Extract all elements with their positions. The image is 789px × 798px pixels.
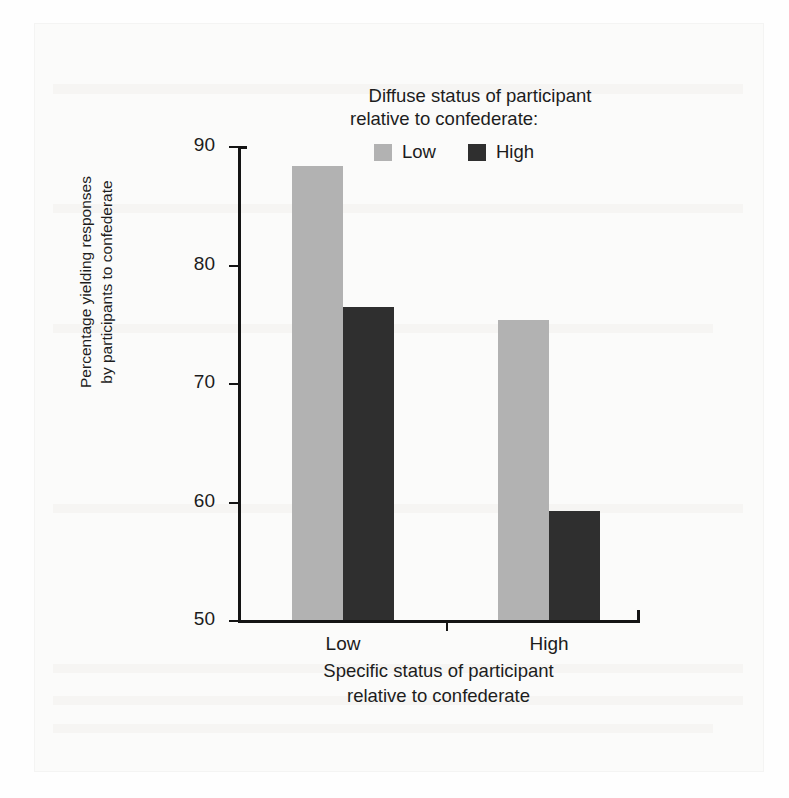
- x-tick-label-low: Low: [273, 632, 413, 656]
- y-axis-title: Percentage yielding responses by partici…: [75, 112, 119, 452]
- x-tick-label-high: High: [479, 632, 619, 656]
- y-tick-label: 80: [194, 253, 215, 275]
- legend-title-line-2: relative to confederate:: [330, 107, 630, 130]
- y-tick: 60: [229, 502, 238, 504]
- y-tick: 80: [229, 265, 238, 267]
- y-tick: 50: [229, 620, 238, 622]
- y-axis-title-line-1: Percentage yielding responses: [75, 112, 96, 452]
- bar-high-low: [498, 320, 549, 620]
- x-axis-right-cap: [637, 610, 640, 623]
- y-axis-title-line-2: by participants to confederate: [96, 112, 117, 452]
- y-tick: 90: [229, 146, 238, 148]
- legend-title: Diffuse status of participant relative t…: [330, 84, 630, 130]
- y-tick: 70: [229, 383, 238, 385]
- y-tick-label: 60: [194, 490, 215, 512]
- x-axis-title-line-1: Specific status of participant: [238, 658, 639, 683]
- y-tick-label: 50: [194, 608, 215, 630]
- scanned-page: Diffuse status of participant relative t…: [0, 0, 789, 798]
- y-axis-line: [238, 146, 241, 620]
- bar-chart-figure: Diffuse status of participant relative t…: [0, 0, 789, 798]
- x-axis-title-line-2: relative to confederate: [238, 683, 639, 708]
- bar-low-low: [292, 166, 343, 620]
- bar-high-high: [549, 511, 600, 620]
- x-tick: [446, 620, 448, 631]
- y-tick-label: 70: [194, 371, 215, 393]
- y-axis-top-cap: [238, 146, 247, 149]
- x-axis-line: [238, 620, 639, 623]
- bar-low-high: [343, 307, 394, 620]
- plot-area: 5060708090 LowHigh: [238, 146, 639, 620]
- x-axis-title: Specific status of participant relative …: [238, 658, 639, 708]
- legend-title-line-1: Diffuse status of participant: [330, 84, 630, 107]
- y-tick-label: 90: [194, 134, 215, 156]
